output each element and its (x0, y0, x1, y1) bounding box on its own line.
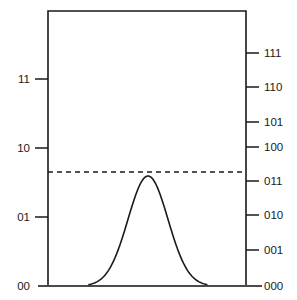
left-axis-labels: 11100100 (17, 73, 30, 292)
left-axis-label-10: 10 (17, 142, 30, 154)
left-axis-label-11: 11 (18, 73, 30, 85)
right-axis-label-101: 101 (264, 116, 283, 128)
gaussian-distribution-curve (89, 176, 207, 285)
right-axis-label-000: 000 (264, 280, 283, 292)
left-axis-ticks (35, 79, 48, 217)
plot-frame (48, 11, 246, 286)
right-axis-label-110: 110 (264, 81, 282, 93)
left-axis-label-00: 00 (17, 280, 30, 292)
right-axis-label-001: 001 (264, 244, 283, 256)
right-axis-ticks (246, 53, 259, 250)
right-axis-label-011: 011 (264, 175, 282, 187)
left-axis-label-01: 01 (17, 211, 30, 223)
quantization-chart-svg: 11100100 111110101100011010001000 (0, 0, 297, 300)
right-axis-label-111: 111 (264, 47, 281, 59)
quantization-figure: 11100100 111110101100011010001000 (0, 0, 297, 300)
plot-frame-border (48, 11, 246, 286)
right-axis-label-100: 100 (264, 141, 283, 153)
right-axis-label-010: 010 (264, 209, 283, 221)
right-axis-labels: 111110101100011010001000 (264, 47, 283, 292)
